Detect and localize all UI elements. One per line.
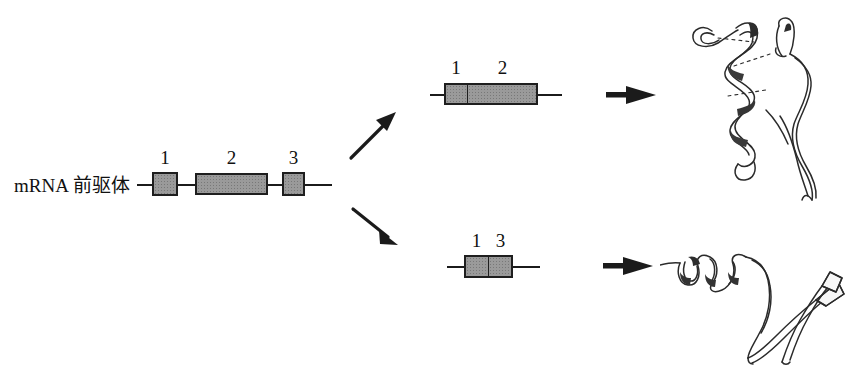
- spliced-top-exon-1-label: 1: [444, 58, 468, 77]
- pre-mrna-intron-line-3: [304, 184, 332, 186]
- pre-mrna-exon-3-label: 3: [282, 148, 305, 167]
- splice-arrow-down-icon: [350, 204, 406, 252]
- pre-mrna-intron-line-1: [177, 184, 196, 186]
- spliced-bottom-line-right: [511, 266, 540, 268]
- pre-mrna-exon-2: [195, 173, 268, 195]
- spliced-bottom-exon-1-label: 1: [464, 231, 489, 250]
- spliced-top-line-right: [536, 94, 562, 96]
- splicing-diagram: mRNA 前驱体 1 2 3 1 2: [0, 0, 861, 366]
- pre-mrna-intron-line-2: [267, 184, 283, 186]
- spliced-bottom-exon-1: [464, 255, 489, 278]
- spliced-bottom-line-left: [447, 266, 465, 268]
- translation-arrow-bottom-icon: [603, 253, 655, 279]
- pre-mrna-exon-2-label: 2: [195, 148, 268, 167]
- translation-arrow-top-icon: [606, 82, 658, 108]
- spliced-bottom-exon-3: [488, 255, 513, 278]
- spliced-top-exon-1: [444, 83, 468, 105]
- pre-mrna-label: mRNA 前驱体: [14, 176, 130, 195]
- pre-mrna-exon-1: [152, 172, 178, 196]
- splice-arrow-up-icon: [348, 108, 404, 162]
- pre-mrna-exon-1-label: 1: [152, 148, 178, 167]
- protein-isoform-long: [662, 4, 861, 204]
- spliced-top-exon-2: [467, 83, 538, 105]
- pre-mrna-exon-3: [282, 172, 305, 196]
- spliced-top-exon-2-label: 2: [467, 58, 538, 77]
- protein-isoform-short: [660, 232, 861, 366]
- spliced-bottom-exon-3-label: 3: [488, 231, 513, 250]
